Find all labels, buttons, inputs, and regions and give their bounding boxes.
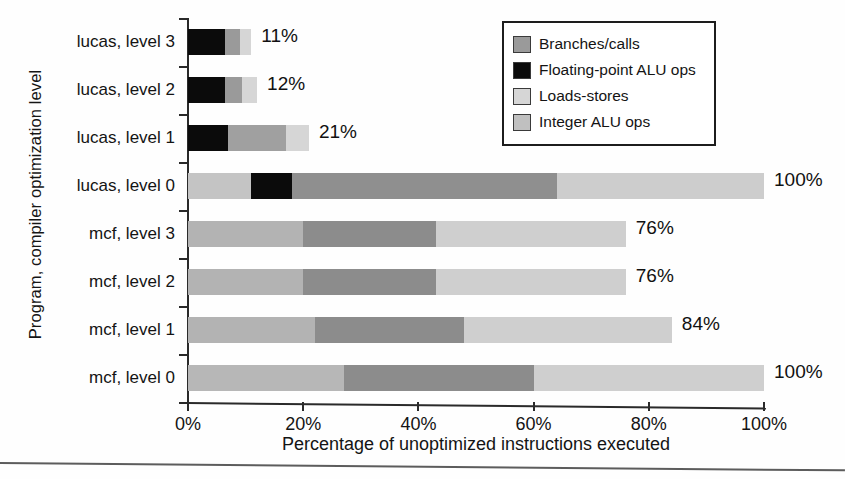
chart-legend: Branches/callsFloating-point ALU opsLoad… <box>502 21 716 146</box>
stacked-bar[interactable] <box>188 365 764 391</box>
stacked-bar[interactable] <box>188 77 257 103</box>
y-axis-tick <box>179 258 188 260</box>
x-axis-tick-label: 100% <box>741 414 787 435</box>
y-axis-tick <box>179 162 188 164</box>
bar-segment <box>188 77 225 103</box>
bar-value-label: 76% <box>636 265 674 287</box>
x-axis-tick-label: 20% <box>285 414 321 435</box>
page-divider-rule <box>0 462 845 471</box>
bar-segment <box>188 317 315 343</box>
legend-swatch-icon <box>513 88 531 105</box>
legend-item[interactable]: Loads-stores <box>513 83 705 109</box>
bar-segment <box>557 173 764 199</box>
bar-row: mcf, level 376% <box>188 210 764 258</box>
bar-row: lucas, level 0100% <box>188 162 764 210</box>
bar-segment <box>303 221 435 247</box>
bar-segment <box>464 317 671 343</box>
bar-segment <box>188 29 225 55</box>
legend-swatch-icon <box>513 62 531 79</box>
x-axis-tick <box>302 402 304 411</box>
bar-segment <box>303 269 435 295</box>
stacked-bar[interactable] <box>188 269 626 295</box>
bar-segment <box>534 365 764 391</box>
bar-value-label: 76% <box>636 217 674 239</box>
bar-segment <box>225 77 241 103</box>
y-axis-tick-label: mcf, level 2 <box>89 269 175 295</box>
bar-segment <box>315 317 465 343</box>
x-axis-title: Percentage of unoptimized instructions e… <box>188 434 764 455</box>
bar-segment <box>436 221 626 247</box>
bar-value-label: 100% <box>774 169 823 191</box>
legend-swatch-icon <box>513 36 531 53</box>
bar-value-label: 12% <box>267 73 305 95</box>
x-axis-tick-label: 80% <box>631 414 667 435</box>
bar-segment <box>251 173 291 199</box>
bar-segment <box>344 365 534 391</box>
bar-row: mcf, level 184% <box>188 306 764 354</box>
bar-segment <box>225 29 239 55</box>
bar-value-label: 84% <box>682 313 720 335</box>
stacked-bar[interactable] <box>188 317 672 343</box>
bar-segment <box>188 173 251 199</box>
chart-figure: Program, compiler optimization level luc… <box>0 0 845 479</box>
y-axis-tick-label: lucas, level 1 <box>77 125 175 151</box>
bar-value-label: 100% <box>774 361 823 383</box>
stacked-bar[interactable] <box>188 29 251 55</box>
y-axis-tick <box>179 354 188 356</box>
legend-label: Integer ALU ops <box>539 113 650 131</box>
bar-segment <box>228 125 286 151</box>
x-axis-tick-label: 60% <box>516 414 552 435</box>
y-axis-tick-label: mcf, level 3 <box>89 221 175 247</box>
x-axis-tick <box>187 402 189 411</box>
legend-item[interactable]: Integer ALU ops <box>513 109 705 135</box>
y-axis-title: Program, compiler optimization level <box>26 15 45 395</box>
legend-label: Floating-point ALU ops <box>539 61 696 79</box>
y-axis-tick <box>179 18 188 20</box>
bar-segment <box>188 221 303 247</box>
x-axis-tick <box>417 402 419 411</box>
bar-segment <box>286 125 309 151</box>
bar-segment <box>188 269 303 295</box>
bar-segment <box>188 125 228 151</box>
y-axis-tick <box>179 210 188 212</box>
x-axis-tick-label: 0% <box>175 414 201 435</box>
y-axis-tick-label: lucas, level 3 <box>77 29 175 55</box>
x-axis-line <box>187 402 766 410</box>
x-axis-tick <box>763 402 765 411</box>
bar-segment <box>188 365 344 391</box>
y-axis-tick-label: lucas, level 2 <box>77 77 175 103</box>
stacked-bar[interactable] <box>188 125 309 151</box>
bar-value-label: 11% <box>261 25 298 47</box>
x-axis-tick <box>648 402 650 411</box>
legend-swatch-icon <box>513 114 531 131</box>
bar-segment <box>242 77 258 103</box>
y-axis-tick <box>179 66 188 68</box>
x-axis-tick <box>533 402 535 411</box>
legend-item[interactable]: Floating-point ALU ops <box>513 57 705 83</box>
legend-label: Branches/calls <box>539 35 640 53</box>
bar-segment <box>292 173 557 199</box>
bar-row: mcf, level 0100% <box>188 354 764 402</box>
bar-segment <box>240 29 252 55</box>
stacked-bar[interactable] <box>188 173 764 199</box>
legend-item[interactable]: Branches/calls <box>513 31 705 57</box>
y-axis-tick-label: mcf, level 0 <box>89 365 175 391</box>
x-axis-tick-label: 40% <box>400 414 436 435</box>
bar-value-label: 21% <box>319 121 357 143</box>
y-axis-tick-label: mcf, level 1 <box>89 317 175 343</box>
y-axis-tick-label: lucas, level 0 <box>77 173 175 199</box>
legend-label: Loads-stores <box>539 87 629 105</box>
y-axis-tick <box>179 114 188 116</box>
stacked-bar[interactable] <box>188 221 626 247</box>
bar-row: mcf, level 276% <box>188 258 764 306</box>
y-axis-tick <box>179 306 188 308</box>
bar-segment <box>436 269 626 295</box>
